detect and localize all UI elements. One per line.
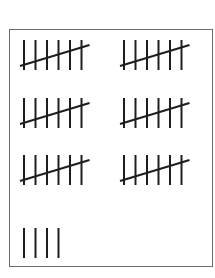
tally-group bbox=[122, 155, 200, 189]
tally-slash bbox=[120, 103, 190, 124]
tally-slash bbox=[120, 45, 190, 66]
tally-slash bbox=[20, 103, 90, 124]
tally-slash bbox=[20, 45, 90, 66]
tally-group bbox=[22, 155, 100, 189]
tally-slash bbox=[120, 160, 190, 181]
tally-slash bbox=[20, 160, 90, 181]
tally-group bbox=[22, 40, 100, 74]
tally-group bbox=[22, 98, 100, 132]
tally-group bbox=[122, 40, 200, 74]
tally-group bbox=[122, 98, 200, 132]
tally-group bbox=[22, 228, 77, 262]
